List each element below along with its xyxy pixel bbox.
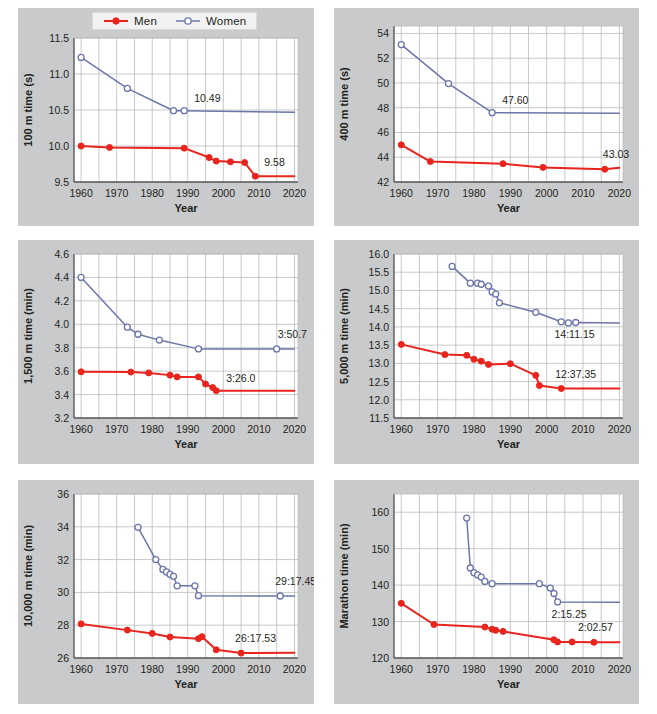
record-annotation: 3:50.7 [278, 328, 307, 340]
y-tick-label: 3.6 [54, 365, 69, 377]
chart-legend: MenWomen [92, 12, 257, 30]
y-tick-label: 26 [57, 652, 69, 664]
x-tick-label: 2010 [247, 663, 271, 675]
data-point-women [573, 320, 579, 326]
x-tick-label: 1970 [426, 663, 450, 675]
data-point-women [536, 581, 542, 587]
record-annotation: 12:37.35 [555, 368, 596, 380]
data-point-women [274, 346, 280, 352]
data-point-women [547, 585, 553, 591]
data-point-men [493, 627, 499, 633]
y-tick-label: 160 [371, 506, 389, 518]
x-tick-label: 1960 [390, 187, 414, 199]
data-point-men [431, 621, 437, 627]
legend-swatch-men-icon [103, 15, 129, 27]
y-tick-label: 13.0 [369, 357, 390, 369]
x-tick-label: 1960 [69, 187, 93, 199]
x-tick-label: 2010 [247, 187, 271, 199]
x-tick-label: 1970 [105, 663, 129, 675]
chart-grid: 9.510.010.511.011.5196019701980199020002… [0, 0, 657, 714]
y-tick-label: 4.0 [54, 318, 69, 330]
data-point-men [146, 370, 152, 376]
data-point-men [213, 158, 219, 164]
data-point-men [540, 164, 546, 170]
data-point-men [167, 372, 173, 378]
legend-swatch-women-icon [175, 15, 201, 27]
y-axis-label: 100 m time (s) [22, 73, 34, 147]
x-axis-label: Year [497, 202, 521, 214]
data-point-women [446, 81, 452, 87]
data-point-women [156, 337, 162, 343]
data-point-women [449, 263, 455, 269]
y-tick-label: 14.0 [369, 321, 390, 333]
y-tick-label: 4.6 [54, 248, 69, 260]
data-point-men [482, 624, 488, 630]
data-point-women [493, 291, 499, 297]
record-annotation: 26:17.53 [235, 632, 276, 644]
x-axis-label: Year [174, 438, 198, 450]
data-point-men [213, 388, 219, 394]
y-tick-label: 12.5 [369, 376, 390, 388]
x-tick-label: 1990 [499, 423, 523, 435]
x-tick-label: 2020 [283, 663, 307, 675]
chart-panel-p400m: 4244464850525419601970198019902000201020… [330, 2, 657, 236]
y-tick-label: 130 [371, 616, 389, 628]
data-point-women [486, 283, 492, 289]
chart-panel-p100m: 9.510.010.511.011.5196019701980199020002… [8, 2, 326, 236]
x-tick-label: 1990 [176, 423, 200, 435]
data-point-men [252, 173, 258, 179]
legend-label-women: Women [206, 15, 246, 27]
x-axis-label: Year [174, 202, 198, 214]
data-point-women [78, 54, 84, 60]
x-axis-label: Year [497, 438, 521, 450]
x-tick-label: 1990 [499, 187, 523, 199]
x-tick-label: 1960 [390, 663, 414, 675]
x-tick-label: 1990 [176, 187, 200, 199]
y-tick-label: 28 [57, 619, 69, 631]
x-tick-label: 2000 [535, 423, 559, 435]
data-point-men [78, 143, 84, 149]
y-tick-label: 3.8 [54, 342, 69, 354]
x-tick-label: 1980 [462, 187, 486, 199]
y-tick-label: 4.2 [54, 295, 69, 307]
data-point-women [181, 108, 187, 114]
plot-pmarathon: 1201301401501601960197019801990200020102… [330, 476, 645, 712]
record-annotation: 10.49 [194, 92, 220, 104]
y-tick-label: 11.5 [49, 32, 69, 44]
x-tick-label: 2000 [212, 663, 236, 675]
y-tick-label: 54 [377, 27, 389, 39]
legend-item-men[interactable]: Men [103, 15, 157, 27]
data-point-men [558, 385, 564, 391]
x-tick-label: 2010 [247, 423, 271, 435]
y-tick-label: 13.5 [369, 339, 390, 351]
plot-p400m: 4244464850525419601970198019902000201020… [330, 2, 645, 230]
data-point-women [489, 110, 495, 116]
data-point-women [551, 590, 557, 596]
data-point-women [467, 280, 473, 286]
y-tick-label: 12.0 [369, 394, 390, 406]
data-point-men [203, 381, 209, 387]
x-tick-label: 2020 [608, 187, 632, 199]
data-point-women [555, 599, 561, 605]
x-tick-label: 1960 [390, 423, 414, 435]
y-tick-label: 3.4 [54, 389, 69, 401]
x-tick-label: 1990 [499, 663, 523, 675]
chart-panel-p5000m: 11.512.012.513.013.514.014.515.015.516.0… [330, 236, 657, 476]
chart-panel-pmarathon: 1201301401501601960197019801990200020102… [330, 476, 657, 714]
data-point-men [78, 621, 84, 627]
data-point-men [195, 374, 201, 380]
data-point-women [482, 578, 488, 584]
data-point-men [238, 650, 244, 656]
data-point-women [171, 108, 177, 114]
x-tick-label: 2000 [212, 187, 236, 199]
data-point-men [213, 647, 219, 653]
plot-p100m: 9.510.010.511.011.5196019701980199020002… [8, 2, 314, 230]
y-axis-label: 1,500 m time (min) [22, 288, 34, 384]
data-point-men [174, 374, 180, 380]
y-tick-label: 9.5 [54, 176, 69, 188]
x-tick-label: 2000 [535, 187, 559, 199]
x-tick-label: 2020 [283, 423, 307, 435]
legend-item-women[interactable]: Women [175, 15, 246, 27]
data-point-women [171, 573, 177, 579]
data-point-men [124, 627, 130, 633]
